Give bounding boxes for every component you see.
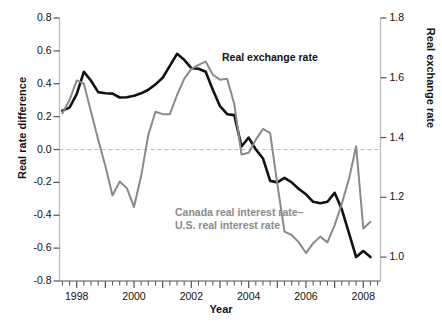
x-tick-2004: 2004 (224, 290, 274, 302)
x-tick-2006: 2006 (281, 290, 331, 302)
y-left-tick-04: 0.4 (18, 77, 52, 89)
y-right-tick-18: 1.8 (390, 11, 424, 23)
y-left-tick-08: 0.8 (18, 11, 52, 23)
x-axis-ticks (62, 281, 377, 288)
x-tick-2008: 2008 (338, 290, 388, 302)
y-right-tick-16: 1.6 (390, 71, 424, 83)
series-label-rate-difference-line1: Canada real interest rate– (175, 206, 303, 219)
y-right-tick-14: 1.4 (390, 131, 424, 143)
x-tick-2000: 2000 (109, 290, 159, 302)
y-axis-left-ticks (54, 18, 60, 281)
chart-figure: Real rate difference Real exchange rate … (0, 0, 442, 327)
y-right-tick-12: 1.2 (390, 190, 424, 202)
series-label-rate-difference: Canada real interest rate– U.S. real int… (175, 206, 303, 232)
y-axis-right-title: Real exchange rate (425, 18, 437, 138)
y-left-tick-06: 0.6 (18, 44, 52, 56)
axis-spines (60, 18, 381, 281)
chart-plot-area (0, 0, 442, 327)
y-right-tick-10: 1.0 (390, 250, 424, 262)
y-left-tick-04: -0.4 (18, 208, 52, 220)
y-left-tick-08: -0.8 (18, 274, 52, 286)
y-left-tick-06: -0.6 (18, 241, 52, 253)
y-axis-right-ticks (381, 18, 387, 257)
y-left-tick-00: 0.0 (18, 143, 52, 155)
x-tick-1998: 1998 (52, 290, 102, 302)
y-left-tick-02: -0.2 (18, 175, 52, 187)
series-label-rate-difference-line2: U.S. real interest rate (175, 219, 303, 232)
x-axis-title: Year (0, 303, 442, 315)
y-left-tick-02: 0.2 (18, 110, 52, 122)
x-tick-2002: 2002 (166, 290, 216, 302)
series-label-real-exchange-rate: Real exchange rate (222, 51, 318, 63)
